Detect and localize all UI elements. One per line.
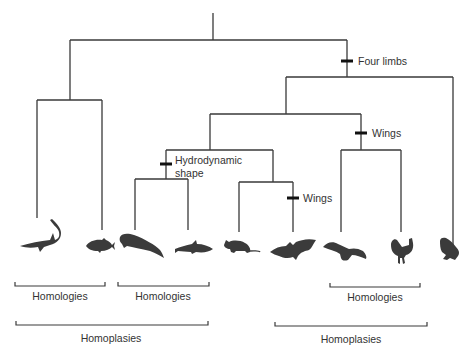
bat-icon [270,239,316,260]
dolphin-icon [175,240,213,254]
rat-bat-clade-branch [239,150,293,232]
tuna-icon [86,238,115,253]
homoplasies-flight-bracket: Homoplasies [275,322,427,345]
homoplasies-flight-label: Homoplasies [321,333,382,345]
sperm-whale-icon [120,234,164,258]
wings-birds-label: Wings [372,127,401,139]
shark-icon [20,219,61,252]
hydrodynamic-label-line2: shape [175,167,204,179]
rat-icon [224,240,260,253]
cladogram: Four limbs Wings Hydrodynamic shape Wing… [0,0,474,360]
amniote-branch [210,77,361,114]
wings-bat-label: Wings [303,192,332,204]
homologies-birds-bracket: Homologies [330,283,420,303]
homologies-cetaceans-bracket: Homologies [118,282,209,302]
rooster-icon [391,238,413,264]
tetrapod-branch [286,40,453,253]
frog-icon [440,238,459,260]
mammal-clade-branch [166,114,273,150]
fish-clade-branch [37,40,102,230]
four-limbs-label: Four limbs [358,55,407,67]
hydrodynamic-label-line1: Hydrodynamic [175,154,242,166]
homologies-birds-label: Homologies [347,291,402,303]
homoplasies-aquatic-label: Homoplasies [81,332,142,344]
eagle-icon [323,242,366,260]
homoplasies-aquatic-bracket: Homoplasies [16,321,208,344]
homologies-fish-bracket: Homologies [15,282,105,302]
homologies-cetaceans-label: Homologies [135,290,190,302]
homologies-fish-label: Homologies [32,290,87,302]
